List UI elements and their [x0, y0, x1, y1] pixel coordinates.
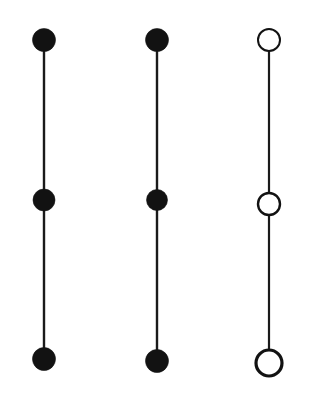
node-middle-middle	[147, 190, 168, 211]
node-left-top	[33, 29, 56, 52]
figure-canvas	[0, 0, 318, 410]
node-left-bottom	[33, 348, 56, 371]
node-right-bottom	[256, 350, 282, 376]
node-left-middle	[33, 189, 55, 211]
chain-figure-diagram	[0, 0, 318, 410]
node-right-middle	[258, 193, 280, 215]
node-right-top	[258, 29, 280, 51]
node-middle-bottom	[146, 350, 169, 373]
node-middle-top	[146, 29, 169, 52]
